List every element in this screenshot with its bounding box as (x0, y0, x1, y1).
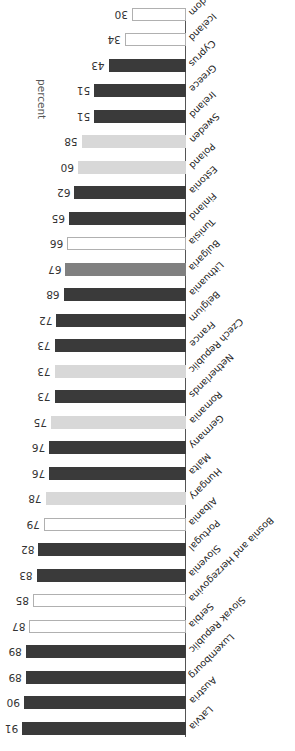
category-label-slot: Poland (191, 162, 295, 173)
bar-row: 73 (55, 340, 186, 353)
bar-value-label: 60 (61, 161, 74, 175)
bar-value-label: 90 (7, 697, 20, 711)
bar-austria (24, 697, 186, 710)
bar-value-label: 66 (50, 238, 63, 252)
category-label-slot: Estonia (191, 188, 295, 199)
category-label-slot: Malta (191, 468, 295, 479)
bar-row: 51 (94, 110, 186, 123)
bar-albania (44, 518, 186, 531)
bar-ireland (94, 110, 186, 123)
category-label-slot: Germany (191, 443, 295, 454)
bar-row: 51 (94, 85, 186, 98)
bar-value-label: 30 (115, 8, 128, 22)
category-label-slot: Greece (191, 86, 295, 97)
bar-value-label: 87 (12, 620, 25, 634)
bar-value-label: 78 (28, 493, 41, 507)
bar-slovak-republic (26, 646, 186, 659)
category-label-slot: Austria (191, 698, 295, 709)
category-label-slot: Lithuania (191, 290, 295, 301)
bar-row: 60 (78, 161, 186, 174)
category-label-slot: Albania (191, 519, 295, 530)
bar-value-label: 89 (8, 671, 21, 685)
bar-value-label: 73 (37, 391, 50, 405)
bar-lithuania (64, 289, 186, 302)
bar-value-label: 85 (16, 595, 29, 609)
category-label-slot: Bosnia and Herzegovina (191, 596, 295, 607)
bar-row: 91 (22, 722, 186, 735)
bar-value-label: 76 (32, 467, 45, 481)
category-label-slot: Portugal (191, 545, 295, 556)
bar-row: 43 (109, 59, 186, 72)
bar-chart-figure: 9190898987858382797876767573737372686766… (0, 0, 295, 751)
category-label-slot: Ireland (191, 111, 295, 122)
bar-row: 83 (37, 569, 186, 582)
bar-cyprus (109, 59, 186, 72)
category-label-slot: Iceland (191, 35, 295, 46)
bar-luxembourg (26, 671, 186, 684)
category-label-slot: Cyprus (191, 60, 295, 71)
bar-value-label: 58 (64, 136, 77, 150)
x-axis-title: percent (36, 79, 48, 119)
bar-row: 73 (55, 391, 186, 404)
bar-row: 68 (64, 289, 186, 302)
bar-slovenia (37, 569, 186, 582)
bar-latvia (22, 722, 186, 735)
bar-value-label: 62 (57, 187, 70, 201)
category-label: Malta (187, 451, 213, 477)
bar-belgium (56, 314, 186, 327)
bar-poland (78, 161, 186, 174)
bar-value-label: 83 (19, 569, 32, 583)
bar-sweden (82, 136, 186, 149)
bar-iceland (125, 34, 186, 47)
bar-row: 79 (44, 518, 186, 531)
bar-finland (69, 212, 186, 225)
bar-row: 85 (33, 595, 186, 608)
category-label-slot: Hungary (191, 494, 295, 505)
category-label-slot: Slovak Republic (191, 647, 295, 658)
bar-value-label: 43 (91, 59, 104, 73)
bar-value-label: 65 (52, 212, 65, 226)
bar-hungary (46, 493, 186, 506)
bar-row: 89 (26, 671, 186, 684)
bar-row: 75 (51, 416, 186, 429)
bar-value-label: 75 (34, 416, 47, 430)
bar-row: 82 (38, 544, 186, 557)
plot-area: 9190898987858382797876767573737372686766… (0, 0, 295, 751)
bar-value-label: 68 (46, 289, 59, 303)
category-label-slot: Slovenia (191, 570, 295, 581)
bar-row: 90 (24, 697, 186, 710)
bar-row: 87 (29, 620, 186, 633)
bar-netherlands (55, 391, 186, 404)
bar-germany (49, 442, 186, 455)
bar-row: 67 (65, 263, 186, 276)
bar-row: 76 (49, 467, 186, 480)
bar-value-label: 91 (5, 722, 18, 736)
category-label-slot: United Kingdom (191, 9, 295, 20)
bar-romania (51, 416, 186, 429)
bar-serbia (29, 620, 186, 633)
bar-tunisia (67, 238, 186, 251)
bar-row: 72 (56, 314, 186, 327)
bar-value-label: 72 (39, 314, 52, 328)
category-label-slot: Finland (191, 213, 295, 224)
category-label-slot: Bulgaria (191, 264, 295, 275)
bar-row: 89 (26, 646, 186, 659)
bar-row: 58 (82, 136, 186, 149)
bar-row: 73 (55, 365, 186, 378)
bar-united-kingdom (132, 8, 186, 21)
category-label-slot: France (191, 341, 295, 352)
category-label-slot: Latvia (191, 723, 295, 734)
bar-value-label: 79 (26, 518, 39, 532)
category-label-slot: Netherlands (191, 392, 295, 403)
bar-value-label: 89 (8, 646, 21, 660)
category-label-slot: Sweden (191, 137, 295, 148)
bar-czech-republic (55, 365, 186, 378)
bar-row: 34 (125, 34, 186, 47)
bar-bulgaria (65, 263, 186, 276)
bar-portugal (38, 544, 186, 557)
bar-row: 30 (132, 8, 186, 21)
bar-malta (49, 467, 186, 480)
bar-value-label: 73 (37, 365, 50, 379)
bar-value-label: 34 (107, 34, 120, 48)
bar-value-label: 67 (48, 263, 61, 277)
